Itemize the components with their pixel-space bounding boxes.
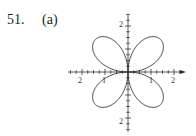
polar-rose-graph: 2 1 1 2 2 2 [0, 0, 196, 136]
x-tick-label-neg1: 1 [102, 76, 106, 85]
x-tick-label-pos2: 2 [171, 76, 175, 85]
y-tick-label-pos2: 2 [119, 20, 123, 29]
x-axis-arrow-icon [180, 70, 186, 74]
x-tick-label-neg2: 2 [78, 76, 82, 85]
axes [68, 14, 186, 132]
x-tick-label-pos1: 1 [149, 76, 153, 85]
y-tick-label-neg2: 2 [119, 117, 123, 126]
